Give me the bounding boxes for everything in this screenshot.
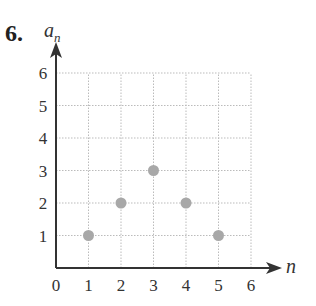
y-axis-label: an xyxy=(44,19,61,45)
data-point xyxy=(181,198,192,209)
y-tick-label: 5 xyxy=(39,97,48,116)
y-tick-label: 1 xyxy=(39,227,48,246)
data-point xyxy=(83,230,94,241)
x-tick-label: 5 xyxy=(214,276,223,295)
x-tick-label: 3 xyxy=(149,276,158,295)
data-point xyxy=(213,230,224,241)
scatter-chart: 0123456123456 n an xyxy=(0,0,316,306)
x-axis-label: n xyxy=(286,255,296,277)
y-tick-label: 3 xyxy=(39,162,48,181)
y-tick-label: 2 xyxy=(39,194,48,213)
y-tick-label: 4 xyxy=(39,129,48,148)
x-tick-label: 2 xyxy=(117,276,126,295)
tick-labels: 0123456123456 xyxy=(39,64,256,295)
x-tick-label: 0 xyxy=(52,276,61,295)
data-point xyxy=(116,198,127,209)
y-tick-label: 6 xyxy=(39,64,48,83)
x-tick-label: 4 xyxy=(182,276,191,295)
x-tick-label: 6 xyxy=(247,276,256,295)
x-tick-label: 1 xyxy=(84,276,93,295)
data-point xyxy=(148,165,159,176)
